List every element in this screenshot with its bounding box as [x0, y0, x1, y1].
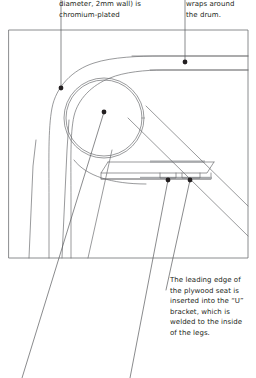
drum-outer-circle	[64, 78, 144, 158]
leader-line-bracket-left	[130, 180, 168, 378]
leader-line-bracket-right	[166, 180, 190, 290]
drawing-stage: diameter, 2mm wall) is chromium-plated w…	[0, 0, 256, 378]
annotation-chromium-plated: diameter, 2mm wall) is chromium-plated	[59, 0, 164, 20]
leader-dot-wraps	[183, 60, 188, 65]
wrap-arm-inner-curve	[71, 70, 248, 258]
drawing-frame	[9, 30, 248, 258]
leader-dot-bracket-right	[188, 178, 193, 183]
leader-dot-drum-center	[102, 110, 107, 115]
annotation-u-bracket: The leading edge of the plywood seat is …	[170, 275, 250, 339]
seat-rear-diagonal	[88, 150, 112, 258]
annotation-wraps-around-drum: wraps around the drum.	[186, 0, 254, 20]
wrap-arm-lower-return	[74, 160, 146, 184]
drum-inner-circle	[66, 80, 142, 156]
plywood-seat-upper-face	[101, 162, 214, 173]
seat-shade-upper	[150, 161, 205, 163]
leg-diagonal-right-inner	[146, 106, 248, 206]
leader-dot-bracket-left	[166, 178, 171, 183]
wrap-arm-outer-curve	[49, 56, 248, 258]
leg-front-left	[29, 140, 36, 258]
leader-dot-chromium	[59, 86, 64, 91]
